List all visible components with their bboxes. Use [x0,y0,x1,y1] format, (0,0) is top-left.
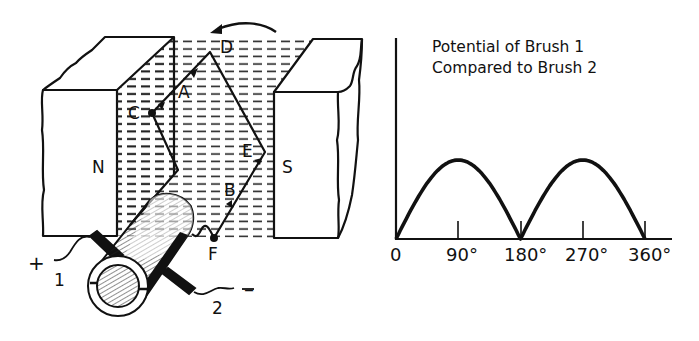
point-c-dot [148,109,156,117]
x-tick-label-270: 270° [565,246,608,264]
label-point-b: B [224,182,236,199]
label-point-c: C [128,105,140,122]
label-point-f: F [208,246,218,263]
x-ticks [458,221,645,239]
label-brush-2: 2 [212,300,223,317]
label-point-a: A [178,84,190,101]
label-negative: – [244,279,254,299]
label-point-d: D [220,39,233,56]
figure: D A C E B F N S + 1 2 – Potential of Bru… [0,0,699,341]
label-south-pole: S [282,159,293,176]
x-tick-label-0: 0 [390,246,401,264]
x-tick-label-360: 360° [628,246,671,264]
rotation-arrow-icon [210,23,276,34]
x-tick-label-180: 180° [504,246,547,264]
chart-title-line-1: Potential of Brush 1 [432,38,584,56]
label-point-e: E [242,143,253,160]
label-brush-1: 1 [54,272,65,289]
label-positive: + [28,253,45,273]
chart-title-line-2: Compared to Brush 2 [432,59,597,77]
x-tick-label-90: 90° [446,246,478,264]
label-north-pole: N [92,159,105,176]
brush-2 [162,268,195,294]
point-f-dot [210,234,218,242]
